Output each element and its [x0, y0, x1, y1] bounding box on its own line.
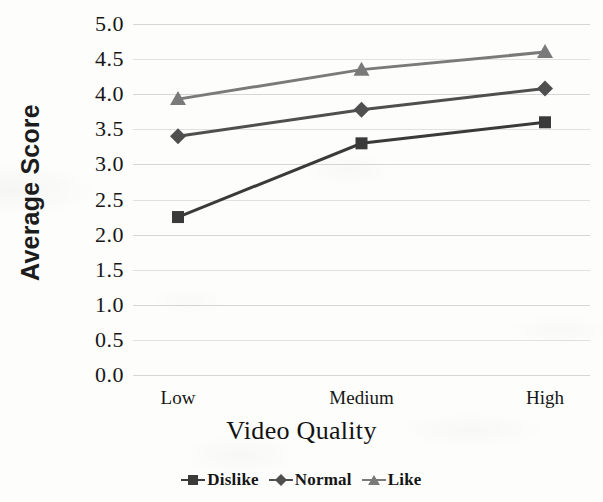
y-axis-tick-labels: 5.04.54.03.53.02.52.01.51.00.50.0	[52, 0, 124, 385]
y-axis-tick-label: 4.5	[95, 46, 124, 72]
triangle-marker-icon	[362, 473, 386, 487]
y-axis-tick-label: 0.0	[95, 362, 124, 388]
legend-item-label: Like	[388, 470, 422, 490]
x-axis-tick-label: Low	[161, 387, 196, 409]
series-line	[178, 122, 545, 217]
y-axis-tick-label: 0.5	[95, 327, 124, 353]
diamond-marker-icon	[354, 102, 370, 118]
diamond-marker-icon	[537, 81, 553, 97]
square-marker-icon	[539, 116, 551, 128]
y-axis-title: Average Score	[10, 0, 50, 385]
plot-area	[133, 24, 590, 375]
x-axis-tick-label: High	[526, 387, 564, 409]
y-axis-tick-label: 4.0	[95, 81, 124, 107]
x-axis-tick-label: Medium	[329, 387, 393, 409]
y-axis-tick-label: 5.0	[95, 11, 124, 37]
y-axis-tick-label: 3.5	[95, 116, 124, 142]
legend-item: Like	[362, 470, 422, 490]
triangle-marker-icon	[537, 44, 553, 58]
legend-item-label: Dislike	[207, 470, 258, 490]
legend-item: Dislike	[181, 470, 258, 490]
y-axis-tick-label: 2.0	[95, 222, 124, 248]
y-axis-title-label: Average Score	[16, 104, 45, 281]
x-axis-title-label: Video Quality	[226, 416, 376, 445]
x-axis-title: Video Quality	[0, 416, 603, 446]
x-axis-tick-labels: LowMediumHigh	[133, 387, 590, 415]
series-lines	[133, 24, 590, 375]
diamond-marker-icon	[269, 473, 293, 487]
square-marker-icon	[172, 211, 184, 223]
y-axis-tick-label: 1.5	[95, 257, 124, 283]
diamond-marker-icon	[170, 128, 186, 144]
square-marker-icon	[181, 473, 205, 487]
chart-figure: Average Score 5.04.54.03.53.02.52.01.51.…	[0, 0, 603, 502]
y-axis-tick-label: 2.5	[95, 187, 124, 213]
legend-symbol	[187, 474, 199, 486]
y-axis-tick-label: 1.0	[95, 292, 124, 318]
legend-symbol	[275, 474, 287, 486]
y-axis-tick-label: 3.0	[95, 151, 124, 177]
legend-symbol	[368, 474, 380, 486]
square-marker-icon	[356, 137, 368, 149]
legend-item-label: Normal	[295, 470, 352, 490]
gridline	[133, 375, 590, 376]
legend-item: Normal	[269, 470, 352, 490]
chart-legend: DislikeNormalLike	[0, 470, 603, 490]
